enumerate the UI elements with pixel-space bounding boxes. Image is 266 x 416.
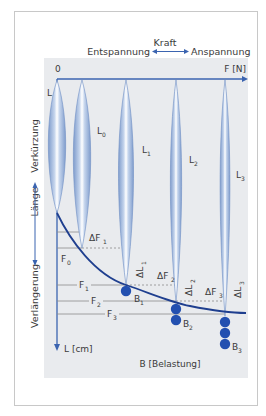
svg-text:ΔL: ΔL (233, 287, 243, 298)
load-ball (220, 328, 230, 338)
svg-text:2: 2 (97, 301, 101, 308)
svg-text:F: F (61, 254, 66, 264)
header-right-label: Anspannung (191, 46, 250, 57)
svg-text:1: 1 (140, 299, 144, 306)
svg-text:ΔF: ΔF (157, 271, 168, 281)
svg-text:ΔL: ΔL (184, 285, 194, 296)
bottom-axis-label: B [Belastung] (139, 359, 200, 369)
svg-text:2: 2 (194, 160, 198, 167)
length-tension-diagram: Kraft Entspannung Anspannung 0 F [N] L [… (0, 0, 266, 416)
side-label-verlaengerung: Verlängerung (29, 264, 40, 328)
svg-text:2: 2 (189, 324, 193, 331)
side-label-verkuerzung: Verkürzung (29, 119, 40, 173)
svg-text:3: 3 (113, 314, 117, 321)
svg-text:2: 2 (189, 279, 196, 283)
double-arrow-icon (152, 49, 189, 54)
y-axis-label: L [cm] (64, 344, 93, 354)
svg-text:ΔL: ΔL (135, 267, 145, 278)
svg-text:F: F (79, 280, 84, 290)
x-axis-label: F [N] (224, 64, 246, 74)
svg-text:3: 3 (238, 281, 245, 285)
header-title: Kraft (154, 37, 177, 48)
svg-text:0: 0 (102, 131, 106, 138)
svg-text:F: F (107, 309, 112, 319)
svg-text:ΔF: ΔF (205, 287, 216, 297)
svg-text:1: 1 (85, 285, 89, 292)
arrow-up-icon (33, 182, 38, 188)
svg-text:3: 3 (241, 175, 245, 182)
load-ball (220, 339, 230, 349)
diagram-panel (44, 58, 248, 378)
svg-text:F: F (91, 296, 96, 306)
load-ball (171, 304, 181, 314)
svg-text:ΔF: ΔF (89, 233, 100, 243)
load-ball (171, 315, 181, 325)
x-origin-label: 0 (55, 64, 61, 74)
muscle-label-L: L (47, 88, 52, 98)
svg-text:1: 1 (103, 238, 107, 245)
load-ball (121, 286, 131, 296)
svg-text:1: 1 (147, 150, 151, 157)
side-length-scale: Länge Verkürzung Verlängerung (29, 119, 40, 328)
svg-text:2: 2 (171, 276, 175, 283)
svg-text:0: 0 (67, 259, 71, 266)
load-ball (220, 317, 230, 327)
svg-text:3: 3 (219, 292, 223, 299)
svg-text:1: 1 (140, 261, 147, 265)
svg-text:3: 3 (238, 347, 242, 354)
header-left-label: Entspannung (87, 46, 150, 57)
